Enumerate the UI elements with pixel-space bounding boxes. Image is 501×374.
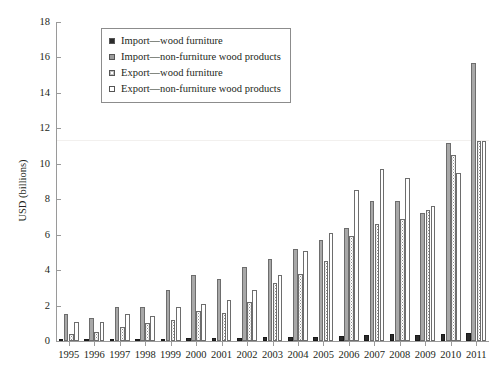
x-axis-tick bbox=[451, 342, 452, 346]
bar bbox=[84, 339, 89, 341]
bar bbox=[212, 338, 217, 341]
legend-item[interactable]: Export—non-furniture wood products bbox=[109, 81, 281, 97]
y-axis-tick-label: 14 bbox=[0, 88, 50, 99]
x-axis-tick bbox=[273, 342, 274, 346]
bar bbox=[400, 219, 405, 341]
bar-group bbox=[390, 22, 410, 341]
bar bbox=[201, 304, 206, 341]
x-axis-tick bbox=[476, 342, 477, 346]
x-axis-tick bbox=[94, 342, 95, 346]
bar bbox=[89, 318, 94, 341]
bar bbox=[390, 334, 395, 341]
bar bbox=[100, 322, 105, 341]
x-axis-tick bbox=[145, 342, 146, 346]
legend-swatch-import-wood-furniture bbox=[109, 38, 115, 44]
bar bbox=[125, 314, 130, 341]
x-axis-tick bbox=[323, 342, 324, 346]
bar bbox=[263, 337, 268, 341]
x-axis-tick bbox=[349, 342, 350, 346]
bar bbox=[431, 206, 436, 341]
bar-group bbox=[339, 22, 359, 341]
bar-group bbox=[364, 22, 384, 341]
bar bbox=[364, 335, 369, 341]
bar-group bbox=[288, 22, 308, 341]
x-axis-tick bbox=[425, 342, 426, 346]
bar bbox=[293, 249, 298, 341]
bar bbox=[482, 141, 487, 341]
y-axis-tick-label: 8 bbox=[0, 194, 50, 205]
bar bbox=[196, 311, 201, 341]
bar bbox=[191, 275, 196, 341]
bar bbox=[446, 143, 451, 341]
x-axis-tick bbox=[171, 342, 172, 346]
bar bbox=[268, 259, 273, 341]
bar bbox=[380, 169, 385, 341]
bar bbox=[288, 337, 293, 341]
bar bbox=[375, 224, 380, 341]
x-axis-tick bbox=[400, 342, 401, 346]
bar bbox=[344, 228, 349, 341]
legend-label: Import—wood furniture bbox=[121, 34, 223, 48]
bar bbox=[140, 307, 145, 341]
legend-swatch-import-nonfurniture bbox=[109, 54, 115, 60]
y-axis-tick-label: 4 bbox=[0, 265, 50, 276]
bar bbox=[74, 322, 79, 341]
bar bbox=[395, 201, 400, 341]
bar bbox=[186, 338, 191, 341]
bar bbox=[252, 290, 257, 341]
legend-label: Export—non-furniture wood products bbox=[121, 82, 281, 96]
legend-swatch-export-nonfurniture bbox=[109, 86, 115, 92]
bar bbox=[247, 302, 252, 341]
bar bbox=[94, 332, 99, 341]
bar-group bbox=[59, 22, 79, 341]
bar bbox=[339, 336, 344, 341]
legend-item[interactable]: Import—wood furniture bbox=[109, 33, 281, 49]
bar bbox=[222, 313, 227, 341]
legend-item[interactable]: Import—non-furniture wood products bbox=[109, 49, 281, 65]
bar bbox=[217, 279, 222, 341]
bar bbox=[237, 338, 242, 341]
bar-group bbox=[415, 22, 435, 341]
y-axis-tick-label: 12 bbox=[0, 123, 50, 134]
legend-label: Export—wood furniture bbox=[121, 66, 223, 80]
bar bbox=[273, 283, 278, 341]
bar bbox=[324, 261, 329, 341]
bar bbox=[354, 190, 359, 341]
x-axis-tick bbox=[120, 342, 121, 346]
y-axis-tick-label: 6 bbox=[0, 230, 50, 241]
x-axis-tick-label: 2011 bbox=[460, 349, 492, 361]
bar-group bbox=[441, 22, 461, 341]
bar bbox=[405, 178, 410, 341]
bar bbox=[150, 316, 155, 341]
bar bbox=[69, 334, 74, 341]
y-axis-tick-label: 2 bbox=[0, 301, 50, 312]
bar bbox=[456, 173, 461, 341]
bar bbox=[166, 290, 171, 341]
y-axis-tick-label: 0 bbox=[0, 336, 50, 347]
bar bbox=[477, 141, 482, 341]
x-axis-tick bbox=[374, 342, 375, 346]
bar bbox=[59, 339, 64, 341]
bar bbox=[145, 323, 150, 341]
bar bbox=[176, 307, 181, 341]
x-axis-tick bbox=[69, 342, 70, 346]
bar bbox=[466, 333, 471, 342]
chart-legend: Import—wood furniture Import—non-furnitu… bbox=[101, 28, 291, 103]
bar bbox=[329, 233, 334, 341]
bar bbox=[171, 320, 176, 341]
bar bbox=[64, 314, 69, 341]
bar bbox=[420, 213, 425, 341]
bar bbox=[242, 267, 247, 341]
bar-group bbox=[466, 22, 486, 341]
legend-item[interactable]: Export—wood furniture bbox=[109, 65, 281, 81]
bar bbox=[370, 201, 375, 341]
bar bbox=[227, 300, 232, 341]
legend-label: Import—non-furniture wood products bbox=[121, 50, 281, 64]
bar bbox=[278, 275, 283, 341]
bar bbox=[441, 334, 446, 341]
y-axis-tick-label: 16 bbox=[0, 52, 50, 63]
bar bbox=[426, 210, 431, 341]
bar bbox=[135, 339, 140, 341]
bar-group bbox=[313, 22, 333, 341]
x-axis-tick bbox=[196, 342, 197, 346]
